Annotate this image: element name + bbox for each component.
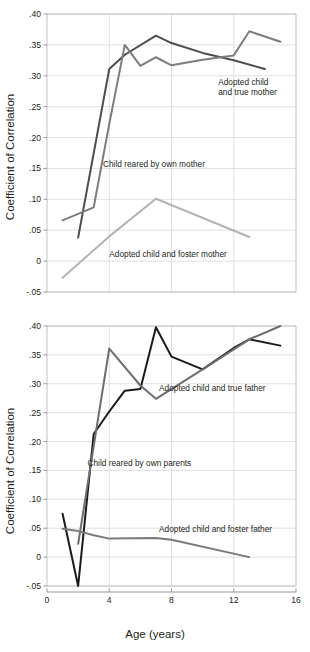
series-annotation: Child reared by own mother [103,159,205,169]
chart-panel-fathers: Coefficient of Correlation -.050.05.10.1… [0,318,310,652]
chart-svg-fathers: -.050.05.10.15.20.25.30.35.400481216Adop… [0,318,310,618]
figure-root: Coefficient of Correlation -.050.05.10.1… [0,0,310,652]
annotation-line: Adopted child and foster mother [109,249,227,259]
y-tick-label: 0 [36,552,41,562]
x-tick-label: 12 [229,595,239,605]
annotation-line: and true mother [218,87,277,97]
annotation-line: Adopted child and foster father [159,524,272,534]
annotation-line: Child reared by own mother [103,159,205,169]
x-axis-ticks: 0481216 [45,589,301,606]
y-tick-label: .30 [29,379,41,389]
x-tick-label: 0 [45,595,50,605]
y-tick-label: .05 [29,523,41,533]
gridlines [47,326,296,586]
y-axis-title-bottom-text: Coefficient of Correlation [4,408,16,534]
series-annotation: Adopted child and true father [159,383,266,393]
x-axis-title: Age (years) [0,628,310,640]
annotation-line: Child reared by own parents [87,458,191,468]
y-tick-label: .40 [29,9,41,19]
y-axis-ticks: -.050.05.10.15.20.25.30.35.40 [26,321,47,591]
series-annotation: Child reared by own parents [87,458,191,468]
y-axis-title-top-text: Coefficient of Correlation [4,94,16,220]
chart-panel-mothers: Coefficient of Correlation -.050.05.10.1… [0,0,310,318]
y-tick-label: .15 [29,163,41,173]
series-line [78,326,280,544]
y-axis-title-bottom: Coefficient of Correlation [2,326,18,616]
y-tick-label: .30 [29,71,41,81]
y-tick-label: .35 [29,40,41,50]
chart-svg-mothers: -.050.05.10.15.20.25.30.35.40Adopted chi… [0,0,310,318]
series-line [63,199,250,278]
y-tick-label: .25 [29,102,41,112]
series-annotation: Adopted child and foster mother [109,249,227,259]
annotation-line: Adopted child [218,77,269,87]
annotation-line: Adopted child and true father [159,383,266,393]
y-tick-label: -.05 [26,287,41,297]
y-tick-label: -.05 [26,581,41,591]
x-tick-label: 4 [107,595,112,605]
series-annotation: Adopted child and foster father [159,524,272,534]
y-tick-label: .35 [29,350,41,360]
y-tick-label: .20 [29,133,41,143]
y-tick-label: .40 [29,321,41,331]
x-tick-label: 16 [291,595,301,605]
x-tick-label: 8 [169,595,174,605]
y-tick-label: .10 [29,194,41,204]
y-tick-label: 0 [36,256,41,266]
y-axis-title-top: Coefficient of Correlation [2,22,18,292]
y-tick-label: .10 [29,494,41,504]
y-tick-label: .05 [29,225,41,235]
y-axis-ticks: -.050.05.10.15.20.25.30.35.40 [26,9,47,297]
series-annotation: Adopted childand true mother [218,77,277,97]
y-tick-label: .15 [29,465,41,475]
y-tick-label: .25 [29,408,41,418]
y-tick-label: .20 [29,437,41,447]
